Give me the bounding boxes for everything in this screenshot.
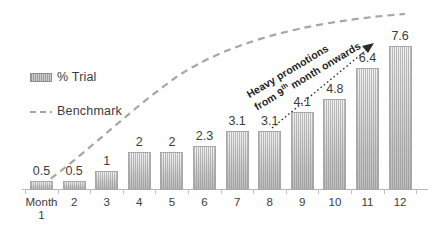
bar-group[interactable]: 2.36 — [193, 146, 216, 190]
bar[interactable] — [389, 46, 412, 190]
bar-value-label: 2.3 — [196, 129, 213, 143]
bar-group[interactable]: 25 — [160, 152, 183, 190]
x-axis-tick — [351, 189, 352, 194]
bar-group[interactable]: 0.5Month1 — [30, 181, 53, 191]
x-axis-tick-label: 2 — [71, 196, 77, 209]
x-axis-tick-label: 3 — [103, 196, 109, 209]
x-axis-tick — [90, 189, 91, 194]
bar[interactable] — [63, 181, 86, 191]
x-axis-tick-label: 11 — [362, 196, 374, 209]
x-axis-tick — [123, 189, 124, 194]
x-axis-tick — [25, 189, 26, 194]
bar-value-label: 0.5 — [33, 164, 50, 178]
x-axis-tick-label: Month1 — [26, 196, 58, 222]
bar[interactable] — [226, 131, 249, 190]
bar-group[interactable]: 13 — [95, 171, 118, 190]
x-axis-tick-label-line2: 1 — [26, 209, 58, 222]
bar-group[interactable]: 0.52 — [63, 181, 86, 191]
chart-container: % Trial Benchmark Heavy promotions from … — [0, 0, 440, 234]
x-axis-tick — [416, 189, 417, 194]
x-axis-tick — [155, 189, 156, 194]
bar-value-label: 2 — [168, 135, 175, 149]
x-axis-tick-label: 6 — [201, 196, 207, 209]
bar[interactable] — [193, 146, 216, 190]
x-axis-tick-label: 4 — [136, 196, 142, 209]
bar[interactable] — [30, 181, 53, 191]
bar-value-label: 1 — [103, 154, 110, 168]
x-axis-tick-label: 5 — [169, 196, 175, 209]
bar-value-label: 0.5 — [65, 164, 82, 178]
x-axis-tick — [58, 189, 59, 194]
bar[interactable] — [323, 99, 346, 190]
bar-value-label: 7.6 — [391, 29, 408, 43]
x-axis-tick — [253, 189, 254, 194]
bar-value-label: 4.8 — [326, 82, 343, 96]
x-axis-tick-label-line1: Month — [26, 196, 58, 209]
x-axis-tick-label: 10 — [328, 196, 341, 209]
bar-series: 0.5Month10.521324252.363.173.184.194.810… — [0, 0, 440, 234]
x-axis-tick — [384, 189, 385, 194]
bar-group[interactable]: 4.810 — [323, 99, 346, 190]
bar-value-label: 3.1 — [228, 114, 245, 128]
x-axis-tick-label: 12 — [394, 196, 407, 209]
bar-group[interactable]: 7.612 — [389, 46, 412, 190]
bar[interactable] — [160, 152, 183, 190]
bar-group[interactable]: 3.18 — [258, 131, 281, 190]
x-axis-tick-label: 8 — [266, 196, 272, 209]
bar[interactable] — [356, 68, 379, 190]
bar-value-label: 2 — [136, 135, 143, 149]
bar[interactable] — [128, 152, 151, 190]
bar[interactable] — [258, 131, 281, 190]
bar-value-label: 3.1 — [261, 114, 278, 128]
x-axis-tick — [318, 189, 319, 194]
x-axis-tick — [221, 189, 222, 194]
bar-group[interactable]: 3.17 — [226, 131, 249, 190]
bar-value-label: 4.1 — [294, 95, 311, 109]
bar[interactable] — [95, 171, 118, 190]
x-axis-tick — [188, 189, 189, 194]
bar-group[interactable]: 24 — [128, 152, 151, 190]
bar[interactable] — [291, 112, 314, 190]
bar-group[interactable]: 4.19 — [291, 112, 314, 190]
bar-group[interactable]: 6.411 — [356, 68, 379, 190]
x-axis-tick-label: 9 — [299, 196, 305, 209]
bar-value-label: 6.4 — [359, 51, 376, 65]
x-axis-tick-label: 7 — [234, 196, 240, 209]
x-axis-tick — [286, 189, 287, 194]
